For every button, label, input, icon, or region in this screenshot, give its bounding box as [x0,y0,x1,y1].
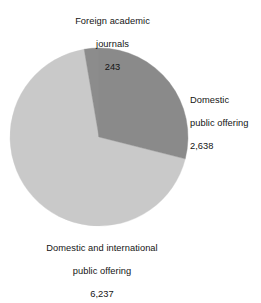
pie-label-domestic-public-line1: Domestic [190,95,261,107]
pie-label-domestic-intl-value: 6,237 [8,289,196,301]
pie-label-domestic-public-offering: Domestic public offering 2,638 [190,83,261,164]
pie-label-foreign-value: 243 [45,62,180,74]
pie-label-foreign-line1: Foreign academic [45,16,180,28]
pie-label-domestic-and-international-public-offering: Domestic and international public offeri… [8,231,196,303]
pie-label-foreign-line2: journals [45,39,180,51]
pie-label-domestic-intl-line2: public offering [8,266,196,278]
pie-label-foreign-academic-journals: Foreign academic journals 243 [45,4,180,85]
pie-label-domestic-intl-line1: Domestic and international [8,243,196,255]
pie-label-domestic-public-value: 2,638 [190,141,261,153]
pie-label-domestic-public-line2: public offering [190,118,261,130]
